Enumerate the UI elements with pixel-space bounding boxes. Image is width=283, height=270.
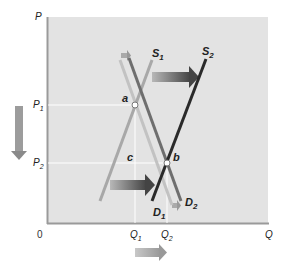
- label-point-a: a: [122, 92, 128, 104]
- label-point-c: c: [127, 151, 133, 163]
- y-tick-p1: P1: [33, 99, 44, 112]
- label-point-b: b: [173, 151, 180, 163]
- y-axis-label: P: [35, 11, 42, 22]
- supply-demand-diagram: S1 S2 D1 D2 a b c P Q 0 P1 P2 Q1 Q2: [0, 0, 283, 270]
- x-axis-label: Q: [265, 229, 273, 240]
- origin-label: 0: [37, 229, 43, 240]
- x-tick-q2: Q2: [161, 229, 173, 242]
- y-tick-p2: P2: [33, 157, 44, 170]
- point-b: [164, 160, 170, 166]
- x-tick-q1: Q1: [130, 229, 142, 242]
- point-a: [132, 102, 138, 108]
- quantity-increase-arrow: [135, 244, 167, 261]
- price-decrease-arrow: [11, 106, 27, 160]
